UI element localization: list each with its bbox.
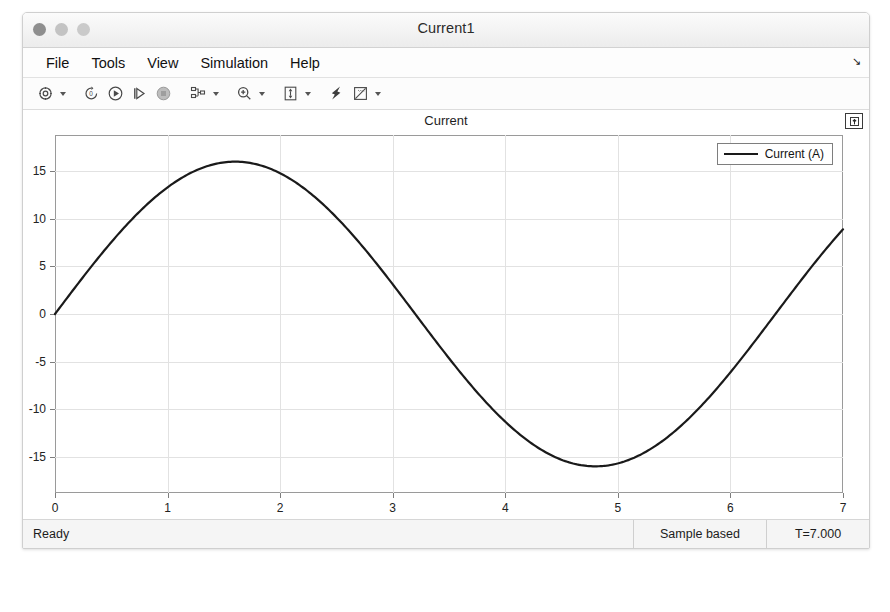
- title-bar: Current1: [23, 13, 869, 48]
- x-tick: [730, 493, 731, 498]
- x-tick: [168, 493, 169, 498]
- y-tick-label: -5: [35, 355, 46, 369]
- menu-view[interactable]: View: [136, 53, 189, 73]
- measurements-icon[interactable]: [348, 82, 372, 106]
- menu-simulation[interactable]: Simulation: [189, 53, 279, 73]
- toolbar: 0: [23, 78, 869, 110]
- step-forward-icon[interactable]: [127, 82, 151, 106]
- maximize-axes-icon[interactable]: [845, 113, 863, 129]
- autoscale-icon[interactable]: [278, 82, 302, 106]
- status-sample-mode: Sample based: [633, 520, 766, 548]
- menu-bar: File Tools View Simulation Help ↘: [23, 48, 869, 78]
- scope-window: Current1 File Tools View Simulation Help…: [22, 12, 870, 549]
- y-tick-label: 15: [33, 164, 46, 178]
- status-bar: Ready Sample based T=7.000: [23, 519, 869, 548]
- configuration-properties-icon[interactable]: [33, 82, 57, 106]
- menu-overflow-icon[interactable]: ↘: [850, 55, 862, 67]
- cursor-measurements-icon[interactable]: [324, 82, 348, 106]
- y-tick-label: 10: [33, 212, 46, 226]
- x-tick-label: 4: [502, 501, 509, 515]
- x-tick-label: 6: [727, 501, 734, 515]
- legend-label-current: Current (A): [765, 147, 824, 161]
- status-simulation-time: T=7.000: [766, 520, 869, 548]
- y-tick-label: 5: [39, 259, 46, 273]
- x-tick-label: 3: [389, 501, 396, 515]
- x-tick-label: 0: [52, 501, 59, 515]
- measurements-caret-icon[interactable]: [372, 82, 383, 106]
- menu-tools[interactable]: Tools: [80, 53, 136, 73]
- plot-title: Current: [23, 113, 869, 128]
- x-tick-label: 7: [840, 501, 847, 515]
- run-back-to-start-icon[interactable]: 0: [79, 82, 103, 106]
- signal-curve: [55, 135, 843, 493]
- svg-text:0: 0: [89, 90, 93, 97]
- autoscale-caret-icon[interactable]: [302, 82, 313, 106]
- screenshot-root: Current1 File Tools View Simulation Help…: [0, 0, 890, 612]
- x-tick: [843, 493, 844, 498]
- x-tick: [280, 493, 281, 498]
- configuration-caret-icon[interactable]: [57, 82, 68, 106]
- plot-axes[interactable]: 151050-5-10-15 01234567 Current (A): [55, 135, 843, 493]
- zoom-in-icon[interactable]: [232, 82, 256, 106]
- x-tick: [55, 493, 56, 498]
- signal-selection-caret-icon[interactable]: [210, 82, 221, 106]
- x-tick-label: 2: [277, 501, 284, 515]
- y-tick-label: 0: [39, 307, 46, 321]
- x-tick: [393, 493, 394, 498]
- menu-help[interactable]: Help: [279, 53, 331, 73]
- status-ready: Ready: [23, 520, 633, 548]
- menu-file[interactable]: File: [35, 53, 80, 73]
- zoom-in-caret-icon[interactable]: [256, 82, 267, 106]
- plot-panel: Current 151050-5-10-15 01234567 Current …: [23, 110, 869, 522]
- plot-legend[interactable]: Current (A): [717, 143, 833, 165]
- x-tick-label: 1: [164, 501, 171, 515]
- signal-selection-icon[interactable]: [186, 82, 210, 106]
- legend-swatch-current: [724, 153, 758, 156]
- x-tick: [505, 493, 506, 498]
- x-tick-label: 5: [615, 501, 622, 515]
- stop-icon[interactable]: [151, 82, 175, 106]
- y-tick-label: -10: [29, 402, 46, 416]
- window-title: Current1: [23, 20, 869, 36]
- x-tick: [618, 493, 619, 498]
- run-icon[interactable]: [103, 82, 127, 106]
- series-line: [55, 162, 843, 467]
- y-tick-label: -15: [29, 450, 46, 464]
